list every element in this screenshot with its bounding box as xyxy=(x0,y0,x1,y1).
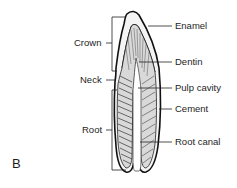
label-enamel: Enamel xyxy=(175,20,207,31)
panel-label: B xyxy=(12,157,21,171)
label-dentin: Dentin xyxy=(175,56,202,67)
label-cement: Cement xyxy=(175,103,208,114)
label-pulp-cavity: Pulp cavity xyxy=(175,82,221,93)
label-root-canal: Root canal xyxy=(175,136,220,147)
tooth-diagram: Crown Neck Root Enamel Dentin Pulp cavit… xyxy=(0,0,237,188)
label-crown: Crown xyxy=(74,37,101,48)
label-root: Root xyxy=(82,124,102,135)
label-neck: Neck xyxy=(80,74,102,85)
